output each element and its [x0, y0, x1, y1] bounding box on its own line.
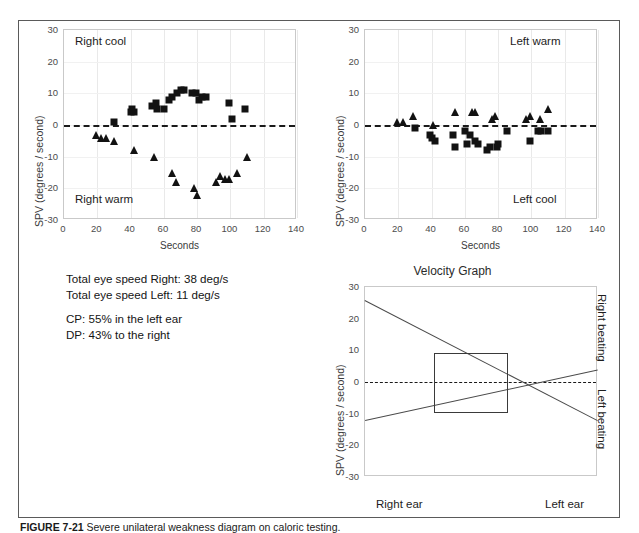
figure-frame: SPV (degrees / second) Seconds Right coo…: [18, 20, 620, 518]
right-ear-y-tick-label: -10: [30, 150, 58, 161]
right-ear-data-point-square: [242, 106, 249, 113]
left-ear-plot-area: [364, 29, 597, 219]
right-ear-y-tick-label: 0: [30, 119, 58, 130]
right-ear-zero-reference-line: [64, 125, 295, 127]
summary-line-total-right: Total eye speed Right: 38 deg/s: [66, 271, 228, 287]
right-ear-gridline-vertical: [297, 30, 298, 218]
right-ear-gridline-vertical: [230, 30, 231, 218]
caloric-summary-block: Total eye speed Right: 38 deg/s Total ey…: [66, 271, 228, 342]
velocity-normal-range-box: [434, 353, 509, 413]
right-ear-top-label: Right cool: [75, 35, 126, 47]
right-ear-data-point-square: [180, 87, 187, 94]
right-ear-y-axis-title: SPV (degrees / second): [33, 116, 45, 227]
right-ear-bottom-label: Right warm: [75, 193, 133, 205]
left-ear-gridline-horizontal: [365, 157, 596, 158]
figure-caption-text: Severe unilateral weakness diagram on ca…: [87, 521, 341, 533]
left-ear-data-point-triangle: [491, 112, 499, 120]
right-ear-gridline-vertical: [131, 30, 132, 218]
summary-line-cp: CP: 55% in the left ear: [66, 311, 228, 327]
left-ear-data-point-square: [450, 131, 457, 138]
left-ear-y-tick-label: -30: [331, 214, 359, 225]
right-ear-plot-area: [63, 29, 296, 219]
right-ear-x-axis-title: Seconds: [63, 240, 296, 251]
summary-line-dp: DP: 43% to the right: [66, 327, 228, 343]
right-ear-gridline-horizontal: [64, 62, 295, 63]
right-ear-gridline-vertical: [97, 30, 98, 218]
figure-caption: FIGURE 7-21 Severe unilateral weakness d…: [20, 521, 620, 533]
left-ear-top-label: Left warm: [510, 35, 561, 47]
right-ear-gridline-vertical: [164, 30, 165, 218]
left-ear-y-axis-title: SPV (degrees / second): [334, 116, 346, 227]
left-ear-gridline-vertical: [565, 30, 566, 218]
left-ear-y-tick-label: -20: [331, 182, 359, 193]
velocity-x-label-left-ear: Left ear: [545, 498, 584, 510]
velocity-graph-title: Velocity Graph: [320, 264, 585, 278]
left-ear-data-point-square: [526, 137, 533, 144]
right-ear-x-tick-label: 0: [60, 223, 65, 234]
summary-line-total-left: Total eye speed Left: 11 deg/s: [66, 287, 228, 303]
left-ear-x-tick-label: 40: [425, 223, 436, 234]
right-ear-gridline-horizontal: [64, 188, 295, 189]
right-ear-data-point-triangle: [168, 169, 176, 177]
right-ear-data-point-triangle: [243, 153, 251, 161]
velocity-y-tick-label: 30: [331, 281, 359, 292]
left-ear-data-point-square: [451, 144, 458, 151]
velocity-y-tick-label: 10: [331, 344, 359, 355]
right-ear-gridline-vertical: [264, 30, 265, 218]
left-ear-y-tick-label: 30: [331, 24, 359, 35]
right-ear-data-point-triangle: [150, 153, 158, 161]
left-ear-data-point-triangle: [409, 112, 417, 120]
right-ear-y-tick-label: 20: [30, 55, 58, 66]
right-ear-data-point-square: [202, 93, 209, 100]
right-ear-y-tick-label: 10: [30, 87, 58, 98]
velocity-side-label-left-beating: Left beating: [596, 389, 608, 449]
right-ear-data-point-square: [160, 106, 167, 113]
left-ear-gridline-horizontal: [365, 62, 596, 63]
left-ear-bottom-label: Left cool: [513, 193, 556, 205]
velocity-y-tick-label: 0: [331, 376, 359, 387]
left-ear-data-point-triangle: [471, 108, 479, 116]
chart-velocity-graph: Velocity Graph SPV (degrees / second) Ri…: [320, 264, 620, 514]
right-ear-data-point-square: [110, 118, 117, 125]
left-ear-x-tick-label: 100: [522, 223, 538, 234]
right-ear-x-tick-label: 140: [288, 223, 304, 234]
right-ear-data-point-square: [130, 109, 137, 116]
right-ear-x-tick-label: 40: [124, 223, 135, 234]
left-ear-data-point-triangle: [451, 108, 459, 116]
left-ear-y-tick-label: 20: [331, 55, 359, 66]
left-ear-data-point-square: [463, 141, 470, 148]
right-ear-x-tick-label: 120: [255, 223, 271, 234]
left-ear-gridline-horizontal: [365, 188, 596, 189]
left-ear-data-point-square: [431, 137, 438, 144]
left-ear-data-point-square: [495, 141, 502, 148]
right-ear-y-tick-label: 30: [30, 24, 58, 35]
right-ear-data-point-triangle: [225, 175, 233, 183]
velocity-y-tick-label: -10: [331, 407, 359, 418]
left-ear-x-tick-label: 80: [492, 223, 503, 234]
right-ear-data-point-square: [225, 99, 232, 106]
left-ear-y-tick-label: 10: [331, 87, 359, 98]
summary-spacer: [66, 302, 228, 311]
right-ear-data-point-triangle: [172, 178, 180, 186]
left-ear-gridline-horizontal: [365, 93, 596, 94]
right-ear-x-tick-label: 60: [158, 223, 169, 234]
right-ear-data-point-square: [229, 115, 236, 122]
left-ear-gridline-vertical: [465, 30, 466, 218]
right-ear-data-point-triangle: [130, 146, 138, 154]
right-ear-y-tick-label: -20: [30, 182, 58, 193]
left-ear-x-tick-label: 140: [589, 223, 605, 234]
left-ear-data-point-square: [411, 125, 418, 132]
figure-caption-label: FIGURE 7-21: [20, 521, 84, 533]
right-ear-data-point-triangle: [193, 191, 201, 199]
left-ear-data-point-square: [503, 128, 510, 135]
left-ear-data-point-square: [475, 141, 482, 148]
right-ear-data-point-triangle: [102, 134, 110, 142]
right-ear-x-tick-label: 100: [221, 223, 237, 234]
velocity-side-label-right-beating: Right beating: [596, 294, 608, 362]
right-ear-y-tick-label: -30: [30, 214, 58, 225]
velocity-x-label-right-ear: Right ear: [376, 498, 423, 510]
left-ear-x-tick-label: 0: [361, 223, 366, 234]
left-ear-data-point-square: [545, 128, 552, 135]
left-ear-x-tick-label: 20: [392, 223, 403, 234]
left-ear-gridline-vertical: [498, 30, 499, 218]
